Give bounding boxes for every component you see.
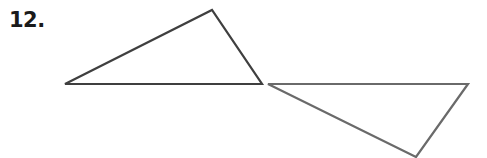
triangles-diagram: [0, 0, 487, 158]
triangle-a: [65, 10, 262, 84]
triangle-b: [268, 84, 468, 157]
